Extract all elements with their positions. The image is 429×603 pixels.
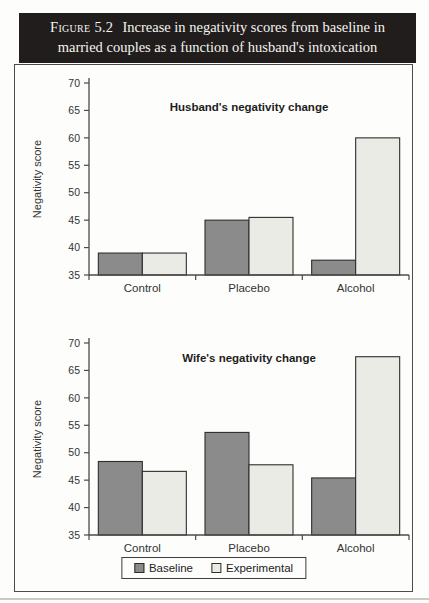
bar-baseline-alcohol — [312, 260, 356, 275]
bar-baseline-placebo — [205, 220, 249, 275]
legend-item-baseline: Baseline — [134, 562, 193, 574]
bar-baseline-placebo — [205, 432, 249, 535]
bar-experimental-alcohol — [356, 138, 400, 275]
husband-negativity-bar-chart: 3540455055606570Negativity scoreControlP… — [15, 65, 414, 311]
bar-experimental-control — [142, 253, 186, 275]
y-tick-label: 40 — [68, 501, 80, 513]
y-tick-label: 50 — [68, 186, 80, 198]
legend-item-experimental: Experimental — [211, 562, 293, 574]
bar-experimental-alcohol — [356, 357, 400, 535]
y-tick-label: 55 — [68, 419, 80, 431]
figure-header: Figure 5.2Increase in negativity scores … — [19, 13, 416, 63]
y-tick-label: 50 — [68, 446, 80, 458]
x-category-label: Alcohol — [337, 282, 375, 294]
figure-label: Figure 5.2 — [50, 19, 113, 35]
figure-panel: 3540455055606570Negativity scoreControlP… — [14, 64, 413, 592]
legend-label-baseline: Baseline — [149, 562, 193, 574]
y-tick-label: 60 — [68, 392, 80, 404]
experimental-swatch-icon — [211, 563, 221, 573]
x-category-label: Control — [124, 282, 161, 294]
x-category-label: Placebo — [228, 282, 270, 294]
y-tick-label: 45 — [68, 474, 80, 486]
chart-title: Wife's negativity change — [182, 352, 316, 364]
wife-negativity-bar-chart: 3540455055606570Negativity scoreControlP… — [15, 325, 414, 571]
y-axis-label: Negativity score — [31, 400, 43, 478]
page-edge-line — [0, 598, 429, 600]
y-axis-label: Negativity score — [31, 140, 43, 218]
x-category-label: Alcohol — [337, 542, 375, 554]
bar-experimental-placebo — [249, 465, 293, 535]
bar-baseline-control — [98, 253, 142, 275]
y-tick-label: 45 — [68, 214, 80, 226]
x-category-label: Placebo — [228, 542, 270, 554]
y-tick-label: 70 — [68, 77, 80, 89]
bar-experimental-control — [142, 471, 186, 535]
bar-baseline-control — [98, 461, 142, 535]
chart-title: Husband's negativity change — [170, 101, 329, 113]
y-tick-label: 65 — [68, 104, 80, 116]
legend-label-experimental: Experimental — [226, 562, 293, 574]
baseline-swatch-icon — [134, 563, 144, 573]
figure-caption: Figure 5.2Increase in negativity scores … — [31, 18, 404, 57]
y-tick-label: 55 — [68, 159, 80, 171]
bar-experimental-placebo — [249, 217, 293, 275]
y-tick-label: 35 — [68, 269, 80, 281]
chart-legend: Baseline Experimental — [121, 557, 306, 579]
y-tick-label: 65 — [68, 364, 80, 376]
y-tick-label: 70 — [68, 337, 80, 349]
x-category-label: Control — [124, 542, 161, 554]
y-tick-label: 60 — [68, 132, 80, 144]
y-tick-label: 35 — [68, 529, 80, 541]
bar-baseline-alcohol — [312, 478, 356, 535]
y-tick-label: 40 — [68, 241, 80, 253]
